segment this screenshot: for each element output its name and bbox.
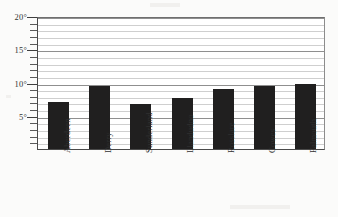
gridline-major: [38, 18, 324, 19]
scan-artifact: [230, 205, 290, 209]
y-tick-minor: [30, 130, 37, 131]
y-tick-minor: [30, 97, 37, 98]
gridline-minor: [38, 71, 324, 72]
y-tick-minor: [30, 37, 37, 38]
gridline-minor: [38, 58, 324, 59]
gridline-minor: [38, 25, 324, 26]
y-tick-minor: [30, 103, 37, 104]
y-axis-label: 20°: [1, 12, 27, 22]
y-tick-minor: [30, 57, 37, 58]
x-axis-label: Sunderland: [144, 112, 154, 153]
x-axis-label: Derry: [103, 132, 113, 153]
y-tick-major: [27, 17, 37, 18]
y-tick-minor: [30, 137, 37, 138]
x-axis-label: Rosslare: [226, 122, 236, 153]
gridline-minor: [38, 78, 324, 79]
scan-artifact: [150, 3, 180, 7]
y-tick-minor: [30, 90, 37, 91]
y-axis-label: 10°: [1, 79, 27, 89]
y-tick-minor: [30, 30, 37, 31]
gridline-major: [38, 51, 324, 52]
plot-area: [37, 17, 325, 150]
gridline-minor: [38, 91, 324, 92]
y-tick-minor: [30, 110, 37, 111]
y-tick-major: [27, 117, 37, 118]
y-tick-major: [27, 50, 37, 51]
y-axis-label: 5°: [1, 112, 27, 122]
y-tick-minor: [30, 123, 37, 124]
y-tick-major: [27, 84, 37, 85]
x-axis-label: Aberdeen: [62, 118, 72, 153]
y-tick-minor: [30, 24, 37, 25]
x-axis-label: Llandudno: [185, 114, 195, 153]
gridline-minor: [38, 38, 324, 39]
y-axis-label: 15°: [1, 45, 27, 55]
scan-artifact: [6, 95, 11, 98]
x-axis-label: Falmouth: [308, 119, 318, 153]
y-tick-minor: [30, 64, 37, 65]
y-tick-minor: [30, 143, 37, 144]
bar-chart: 20°15°10°5° AberdeenDerrySunderlandLland…: [0, 0, 338, 217]
y-tick-minor: [30, 44, 37, 45]
gridline-minor: [38, 45, 324, 46]
gridline-minor: [38, 65, 324, 66]
x-axis-label: Cowes: [267, 129, 277, 153]
y-tick-minor: [30, 77, 37, 78]
gridline-minor: [38, 31, 324, 32]
y-tick-minor: [30, 70, 37, 71]
gridline-major: [38, 85, 324, 86]
